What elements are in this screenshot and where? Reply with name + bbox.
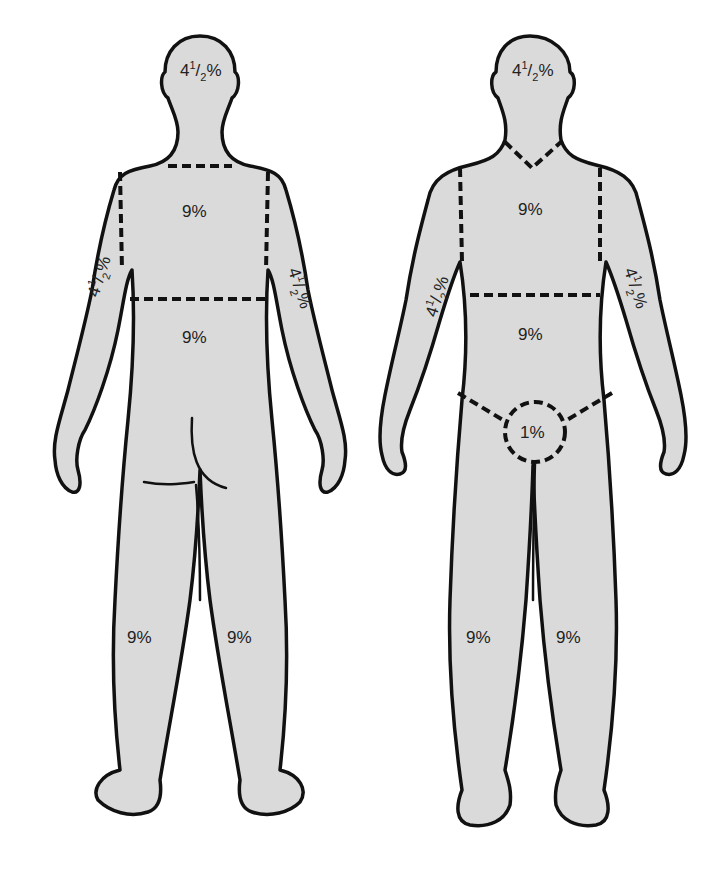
back-upper-back-label: 9% [182, 202, 207, 221]
front-figure: 41/2% 9% 9% 41/2% 41/2% 1% 9% 9% [380, 36, 686, 826]
front-chest-label: 9% [518, 200, 543, 219]
back-left-leg-label: 9% [127, 628, 152, 647]
back-body-outline [54, 36, 345, 814]
front-left-leg-label: 9% [466, 628, 491, 647]
back-right-leg-label: 9% [227, 628, 252, 647]
rule-of-nines-diagram: 41/2% 9% 9% 41/2% 41/2% 9% 9% 41/2% 9% 9… [0, 0, 711, 874]
front-right-leg-label: 9% [556, 628, 581, 647]
front-genital-label: 1% [520, 423, 545, 442]
back-lower-back-label: 9% [182, 328, 207, 347]
back-figure: 41/2% 9% 9% 41/2% 41/2% 9% 9% [54, 36, 345, 814]
front-leg-split [533, 462, 535, 600]
front-abdomen-label: 9% [518, 325, 543, 344]
